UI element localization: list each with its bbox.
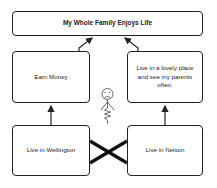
wellington-label: Live in Wellington [27,146,75,154]
goal-label: My Whole Family Enjoys Life [63,19,152,28]
lovely-place-label: Live in a lovely place and see my parent… [132,64,198,89]
wellington-box: Live in Wellington [12,125,90,176]
sad-stick-figure-icon [101,89,114,125]
nelson-box: Live in Nelson [127,125,203,176]
lovely-place-box: Live in a lovely place and see my parent… [127,51,203,103]
arrow-earn-money-to-goal [79,38,92,51]
arrow-lovely-place-to-goal [125,38,138,51]
earn-money-label: Earn Money [34,73,67,81]
earn-money-box: Earn Money [12,51,90,103]
goal-box: My Whole Family Enjoys Life [12,11,203,36]
nelson-label: Live in Nelson [146,146,185,154]
conflict-cross-icon [90,141,127,163]
